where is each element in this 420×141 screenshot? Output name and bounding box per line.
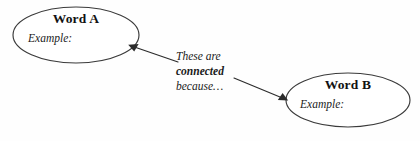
diagram-canvas [0,0,420,141]
arrow-to-word-b[interactable] [234,78,288,100]
word-connection-diagram: Word A Example: Word B Example: These ar… [0,0,420,141]
ellipse-word-a[interactable] [13,7,139,63]
ellipse-word-b[interactable] [286,73,410,127]
arrow-to-word-a[interactable] [128,44,178,62]
